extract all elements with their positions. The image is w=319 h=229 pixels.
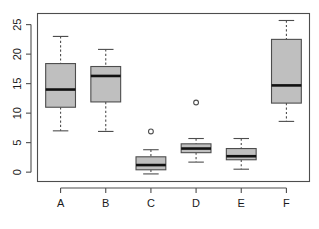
box-iqr [91,67,121,102]
outlier-point [149,129,154,134]
box-group-e [226,139,256,170]
box-group-a [46,36,76,130]
box-iqr [226,149,256,160]
boxplot-figure: 0510152025 ABCDEF [0,0,319,229]
outlier-point [194,100,199,105]
boxplot-canvas: 0510152025 ABCDEF [0,0,319,229]
y-tick-label: 0 [11,169,23,175]
box-group-d [181,100,211,162]
y-tick-label: 5 [11,140,23,146]
box-iqr [272,39,302,103]
box-series [46,20,302,173]
y-tick-label: 10 [11,107,23,119]
x-axis: ABCDEF [57,188,290,209]
box-iqr [46,64,76,108]
x-tick-label-b: B [102,197,109,209]
x-tick-label-c: C [147,197,155,209]
box-group-b [91,49,121,131]
x-tick-label-f: F [283,197,290,209]
panel-frame [38,14,310,182]
y-tick-label: 25 [11,18,23,30]
box-group-f [272,20,302,121]
box-group-c [136,129,166,174]
x-tick-label-d: D [192,197,200,209]
y-tick-label: 20 [11,48,23,60]
y-tick-label: 15 [11,78,23,90]
x-tick-label-e: E [238,197,245,209]
plot-panel-border [38,14,310,182]
x-tick-label-a: A [57,197,65,209]
box-iqr [136,157,166,170]
y-axis: 0510152025 [11,18,31,175]
